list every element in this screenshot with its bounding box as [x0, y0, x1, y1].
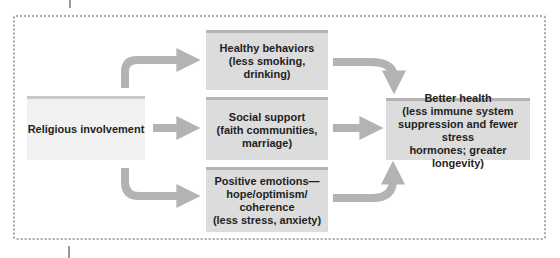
outcome-label: Better health (less immune system suppre… [386, 92, 530, 170]
arrow-positive-emotions-to-outcome [333, 175, 393, 198]
arrow-healthy-behaviors-to-outcome [333, 62, 394, 80]
outcome-box-better-health: Better health (less immune system suppre… [386, 98, 530, 160]
source-box-religious-involvement: Religious involvement [27, 96, 145, 160]
source-label: Religious involvement [28, 123, 145, 136]
mediator-box-healthy-behaviors: Healthy behaviors (less smoking, drinkin… [206, 30, 328, 90]
mediator-box-positive-emotions: Positive emotions— hope/optimism/ cohere… [206, 167, 328, 232]
mediator-label-positive-emotions: Positive emotions— hope/optimism/ cohere… [213, 175, 321, 227]
mediator-label-healthy-behaviors: Healthy behaviors (less smoking, drinkin… [206, 42, 328, 81]
arrow-source-to-positive-emotions [125, 168, 186, 196]
mediator-box-social-support: Social support (faith communities, marri… [206, 97, 328, 160]
mediator-label-social-support: Social support (faith communities, marri… [217, 111, 318, 150]
arrow-source-to-healthy-behaviors [125, 60, 186, 88]
